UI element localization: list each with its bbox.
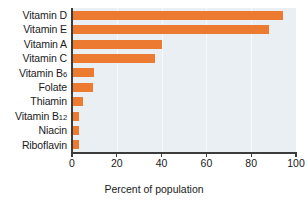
category-label: Vitamin A: [0, 37, 70, 51]
category-label: Vitamin E: [0, 22, 70, 36]
x-tick-label: 60: [201, 157, 213, 170]
category-label: Niacin: [0, 123, 70, 137]
bar: [72, 68, 94, 77]
category-label: Thiamin: [0, 94, 70, 108]
y-axis-line: [71, 8, 73, 153]
plot-area: [72, 8, 296, 152]
bar-row: [72, 94, 296, 108]
vitamin-deficiency-bar-chart: Vitamin DVitamin EVitamin AVitamin CVita…: [0, 0, 308, 204]
bar-row: [72, 109, 296, 123]
bar: [72, 97, 83, 106]
bar-row: [72, 80, 296, 94]
x-tick-label: 40: [156, 157, 168, 170]
bars-group: [72, 8, 296, 152]
bar: [72, 112, 79, 121]
x-tick-label: 80: [245, 157, 257, 170]
bar: [72, 140, 79, 149]
bar-row: [72, 138, 296, 152]
bar: [72, 25, 269, 34]
category-label: Vitamin B12: [0, 109, 70, 123]
bar-row: [72, 66, 296, 80]
bar: [72, 126, 79, 135]
category-label: Vitamin D: [0, 8, 70, 22]
x-axis-ticks: 020406080100: [0, 153, 308, 167]
bar: [72, 11, 283, 20]
bar-row: [72, 51, 296, 65]
x-tick-label: 20: [111, 157, 123, 170]
bar-row: [72, 123, 296, 137]
x-axis-title: Percent of population: [0, 183, 308, 195]
bar: [72, 40, 162, 49]
category-label: Riboflavin: [0, 138, 70, 152]
bar-row: [72, 22, 296, 36]
category-label: Folate: [0, 80, 70, 94]
bar-row: [72, 8, 296, 22]
category-label: Vitamin C: [0, 51, 70, 65]
bar-row: [72, 37, 296, 51]
bar: [72, 54, 155, 63]
category-label: Vitamin B6: [0, 66, 70, 80]
x-tick-label: 0: [69, 157, 75, 170]
x-tick-label: 100: [287, 157, 305, 170]
bar: [72, 83, 93, 92]
category-axis-labels: Vitamin DVitamin EVitamin AVitamin CVita…: [0, 8, 70, 152]
